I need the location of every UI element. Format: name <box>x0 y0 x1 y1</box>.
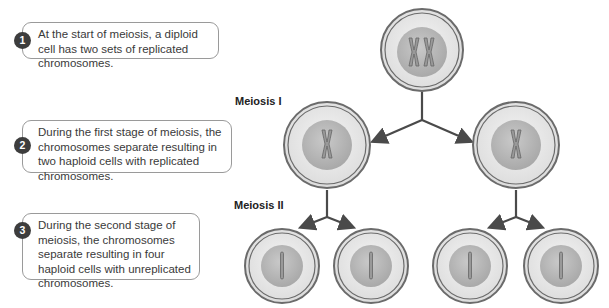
meiosis-2-cell-3 <box>433 229 507 303</box>
meiosis-diagram <box>0 0 609 308</box>
meiosis-1-cell-right <box>473 102 559 188</box>
meiosis-2-cell-4 <box>524 229 598 303</box>
meiosis-2-cell-1 <box>245 229 319 303</box>
chromatid-icon <box>370 252 373 279</box>
chromatid-icon <box>469 252 472 279</box>
meiosis-1-cell-left <box>284 102 370 188</box>
chromatid-icon <box>281 252 284 279</box>
diploid-cell <box>381 9 463 91</box>
meiosis-2-cell-2 <box>334 229 408 303</box>
chromatid-icon <box>560 252 563 279</box>
